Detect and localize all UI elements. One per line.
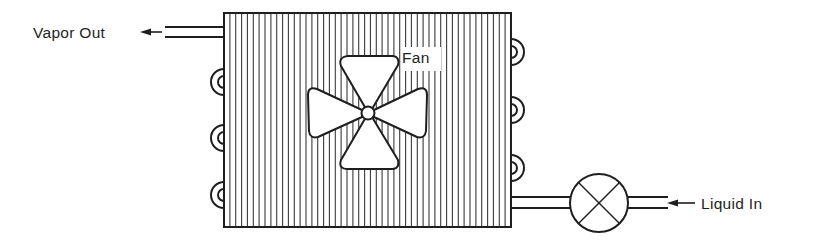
liquid-in-arrow-icon [667, 200, 695, 207]
expansion-valve-icon [570, 174, 628, 232]
right-return-bends [511, 39, 524, 181]
condenser-diagram [0, 0, 816, 244]
liquid-line-pipe [511, 197, 570, 208]
vapor-out-arrow-icon [140, 29, 162, 36]
liquid-in-pipe [628, 197, 668, 208]
fan-label: Fan [402, 50, 430, 66]
vapor-out-pipe [165, 27, 224, 37]
vapor-out-label: Vapor Out [33, 25, 105, 41]
left-return-bends [211, 69, 224, 208]
liquid-in-label: Liquid In [701, 196, 762, 212]
